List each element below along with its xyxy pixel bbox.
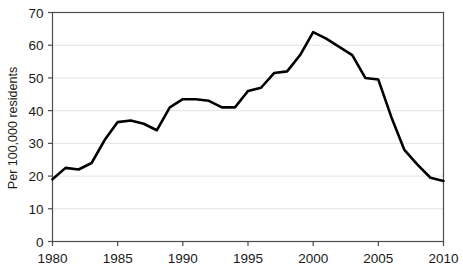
x-tick-label: 2000	[298, 251, 328, 266]
x-tick-label: 1980	[37, 251, 67, 266]
y-tick-label: 20	[28, 169, 43, 184]
y-tick-label: 70	[28, 6, 43, 21]
x-tick-label: 1995	[233, 251, 263, 266]
x-tick-label: 2010	[428, 251, 458, 266]
chart-figure: 010203040506070 198019851990199520002005…	[0, 0, 463, 276]
line-chart: 010203040506070 198019851990199520002005…	[0, 0, 463, 276]
y-axis-title: Per 100,000 residents	[6, 67, 20, 189]
x-tick-label: 2005	[363, 251, 393, 266]
x-tick-label: 1990	[168, 251, 198, 266]
y-tick-label: 0	[36, 235, 44, 250]
y-tick-label: 40	[28, 104, 43, 119]
y-tick-label: 60	[28, 38, 43, 53]
chart-background	[0, 0, 463, 276]
y-tick-label: 10	[28, 202, 43, 217]
x-tick-label: 1985	[103, 251, 133, 266]
y-tick-label: 30	[28, 136, 43, 151]
y-tick-label: 50	[28, 71, 43, 86]
